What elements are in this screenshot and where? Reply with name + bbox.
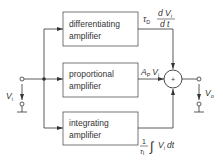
block-differentiating: differentiating amplifier	[63, 12, 138, 46]
block-label: differentiating	[69, 19, 120, 29]
input-terminal	[17, 77, 44, 112]
svg-text:∫: ∫	[149, 139, 155, 154]
output-label: Vo	[205, 88, 214, 99]
block-proportional: proportional amplifier	[63, 63, 138, 97]
wire-differential	[138, 29, 173, 69]
svg-text:d Vi: d Vi	[158, 8, 172, 19]
plus-icon: +	[171, 76, 175, 83]
differential-expression: τD d Vi d t	[143, 8, 175, 29]
svg-text:τD: τD	[143, 14, 150, 25]
block-label: amplifier	[69, 31, 101, 41]
svg-text:τI: τI	[140, 148, 145, 156]
svg-text:d t: d t	[160, 19, 170, 29]
block-label: integrating	[69, 118, 109, 128]
proportional-expression: APVi	[140, 67, 159, 78]
summing-junction: +	[164, 70, 182, 88]
pid-diagram: Vi differentiating amplifier proportiona…	[0, 0, 223, 161]
block-label: amplifier	[69, 81, 101, 91]
block-label: proportional	[69, 69, 114, 79]
wire-integral	[138, 89, 173, 128]
block-label: amplifier	[69, 130, 101, 140]
input-label: Vi	[6, 91, 13, 102]
svg-text:1: 1	[142, 138, 146, 145]
output-terminal	[182, 77, 204, 112]
svg-text:Vidt: Vidt	[158, 140, 175, 151]
block-integrating: integrating amplifier	[63, 112, 138, 145]
integral-expression: 1 τI ∫ Vidt	[140, 138, 175, 156]
